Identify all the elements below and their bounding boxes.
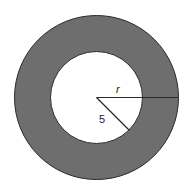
outer-radius-label: r (116, 84, 120, 95)
annulus-diagram (0, 0, 191, 190)
inner-radius-label: 5 (99, 114, 105, 125)
